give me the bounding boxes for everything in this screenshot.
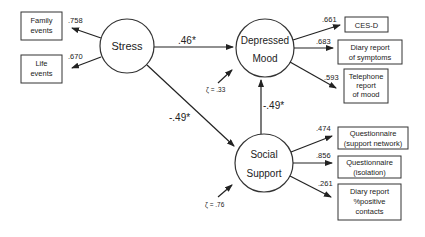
zeta-social: ζ = .76	[205, 201, 225, 209]
svg-text:(isolation): (isolation)	[353, 168, 386, 177]
indicator-life-events: Life events	[21, 55, 62, 83]
disturbance-arrow-depressed	[218, 70, 232, 83]
loading-arrow-family	[72, 28, 101, 38]
svg-text:events: events	[30, 26, 52, 35]
loading-isolation: .856	[316, 151, 331, 160]
indicator-diary-symptoms: Diary report of symptoms	[338, 40, 402, 64]
svg-text:of symptoms: of symptoms	[349, 53, 392, 62]
svg-text:Stress: Stress	[111, 40, 143, 52]
coef-stress-social: -.49*	[169, 112, 190, 123]
loading-life: .670	[68, 52, 83, 61]
svg-text:Depressed: Depressed	[241, 35, 289, 46]
coef-stress-depressed: .46*	[178, 35, 196, 46]
svg-text:Diary report: Diary report	[350, 43, 390, 52]
svg-text:(support network): (support network)	[344, 139, 403, 148]
indicator-diary-positive-contacts: Diary report %positive contacts	[338, 184, 401, 220]
coef-social-depressed: -.49*	[263, 100, 284, 111]
svg-text:Support: Support	[246, 168, 281, 179]
indicator-ces-d: CES-D	[345, 17, 388, 32]
svg-text:Questionnaire: Questionnaire	[350, 129, 397, 138]
svg-text:Telephone: Telephone	[349, 72, 384, 81]
loading-support-network: .474	[316, 124, 331, 133]
loading-cesd: .661	[322, 15, 337, 24]
indicator-family-events: Family events	[21, 12, 62, 40]
loading-diary: .683	[316, 37, 331, 46]
loading-diary-contacts: .261	[318, 179, 333, 188]
indicator-telephone-mood: Telephone report of mood	[344, 69, 388, 103]
svg-text:%positive: %positive	[353, 197, 385, 206]
svg-text:Questionnaire: Questionnaire	[346, 158, 393, 167]
latent-social-support: Social Support	[235, 134, 293, 192]
path-diagram: Family events Life events .758 .670 Stre…	[0, 0, 425, 237]
svg-text:Life: Life	[35, 59, 47, 68]
indicator-isolation: Questionnaire (isolation)	[338, 156, 401, 178]
zeta-depressed: ζ = .33	[206, 86, 226, 94]
svg-text:Mood: Mood	[252, 53, 277, 64]
svg-text:contacts: contacts	[356, 207, 384, 216]
svg-text:Social: Social	[250, 149, 277, 160]
latent-stress: Stress	[100, 19, 154, 73]
disturbance-arrow-social	[218, 185, 232, 197]
latent-depressed-mood: Depressed Mood	[236, 19, 294, 77]
loading-arrow-support-network	[291, 136, 332, 152]
svg-text:events: events	[30, 69, 52, 78]
svg-text:CES-D: CES-D	[355, 21, 379, 30]
svg-text:report: report	[356, 81, 377, 90]
svg-text:Diary report: Diary report	[350, 187, 390, 196]
indicator-support-network: Questionnaire (support network)	[338, 127, 408, 149]
loading-family: .758	[68, 16, 83, 25]
loading-telephone: .593	[324, 73, 339, 82]
svg-text:of mood: of mood	[352, 90, 379, 99]
svg-text:Family: Family	[30, 16, 52, 25]
path-stress-social	[147, 65, 234, 146]
